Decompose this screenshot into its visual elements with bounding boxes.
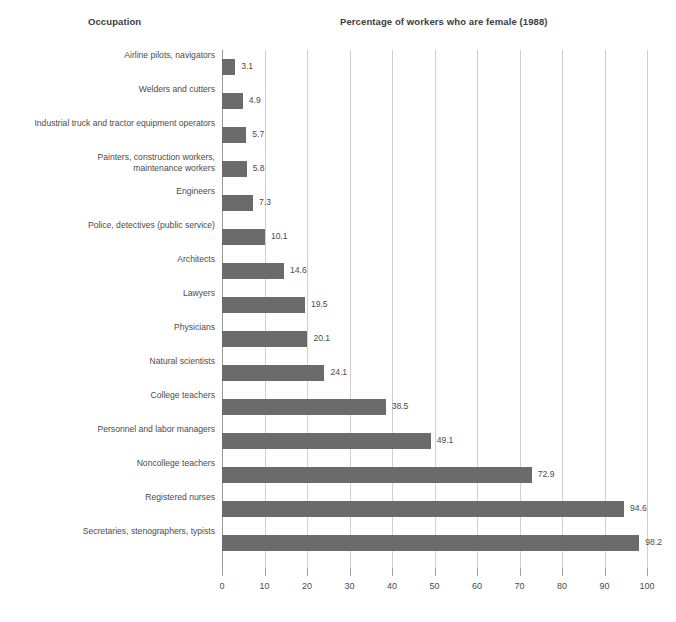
bar xyxy=(222,501,624,517)
bar xyxy=(222,467,532,483)
bar-row: Police, detectives (public service)10.1 xyxy=(0,220,676,254)
bar-container: 94.6 xyxy=(222,501,624,517)
bar-chart: Occupation Percentage of workers who are… xyxy=(0,0,676,622)
bar-row: Physicians20.1 xyxy=(0,322,676,356)
x-tick-label: 50 xyxy=(429,581,439,591)
bar-container: 49.1 xyxy=(222,433,431,449)
bar xyxy=(222,365,324,381)
category-label: Physicians xyxy=(0,322,215,333)
category-label: Architects xyxy=(0,254,215,265)
bar-value-label: 7.3 xyxy=(259,197,271,207)
bar-row: Personnel and labor managers49.1 xyxy=(0,424,676,458)
chart-title: Percentage of workers who are female (19… xyxy=(340,16,548,27)
category-label: Police, detectives (public service) xyxy=(0,220,215,231)
bar-container: 10.1 xyxy=(222,229,265,245)
bar-value-label: 19.5 xyxy=(311,299,328,309)
bar-row: Industrial truck and tractor equipment o… xyxy=(0,118,676,152)
bar-row: Natural scientists24.1 xyxy=(0,356,676,390)
bar-row: Welders and cutters4.9 xyxy=(0,84,676,118)
bar-row: Lawyers19.5 xyxy=(0,288,676,322)
category-label: Welders and cutters xyxy=(0,84,215,95)
bar xyxy=(222,59,235,75)
bar-container: 5.8 xyxy=(222,161,247,177)
bar-container: 24.1 xyxy=(222,365,324,381)
bar-value-label: 5.7 xyxy=(252,129,264,139)
category-label: Registered nurses xyxy=(0,492,215,503)
x-tick-50 xyxy=(435,568,436,576)
bar xyxy=(222,195,253,211)
x-tick-label: 100 xyxy=(639,581,654,591)
category-label: Personnel and labor managers xyxy=(0,424,215,435)
category-label: Lawyers xyxy=(0,288,215,299)
bar-row: Registered nurses94.6 xyxy=(0,492,676,526)
bar-row: Painters, construction workers, maintena… xyxy=(0,152,676,186)
x-tick-label: 60 xyxy=(472,581,482,591)
bar-value-label: 98.2 xyxy=(645,537,662,547)
category-label: Natural scientists xyxy=(0,356,215,367)
bar-value-label: 49.1 xyxy=(437,435,454,445)
x-tick-label: 20 xyxy=(302,581,312,591)
category-label: Painters, construction workers, maintena… xyxy=(0,152,215,173)
bar xyxy=(222,127,246,143)
bar-row: Engineers7.3 xyxy=(0,186,676,220)
bar-value-label: 4.9 xyxy=(249,95,261,105)
x-tick-label: 0 xyxy=(219,581,224,591)
bar-value-label: 20.1 xyxy=(313,333,330,343)
bar-container: 3.1 xyxy=(222,59,235,75)
bar-value-label: 3.1 xyxy=(241,61,253,71)
bar-container: 72.9 xyxy=(222,467,532,483)
bar-value-label: 24.1 xyxy=(330,367,347,377)
category-label: Secretaries, stenographers, typists xyxy=(0,526,215,537)
bar xyxy=(222,229,265,245)
x-tick-70 xyxy=(520,568,521,576)
bar-row: Architects14.6 xyxy=(0,254,676,288)
bar-value-label: 38.5 xyxy=(392,401,409,411)
x-tick-90 xyxy=(605,568,606,576)
bar xyxy=(222,535,639,551)
x-tick-100 xyxy=(647,568,648,576)
bar-value-label: 14.6 xyxy=(290,265,307,275)
category-label: Airline pilots, navigators xyxy=(0,50,215,61)
x-axis: 0102030405060708090100 xyxy=(222,568,647,608)
bar-container: 20.1 xyxy=(222,331,307,347)
bar xyxy=(222,93,243,109)
bar-row: Secretaries, stenographers, typists98.2 xyxy=(0,526,676,560)
category-axis-header: Occupation xyxy=(88,16,141,27)
x-tick-20 xyxy=(307,568,308,576)
bar-container: 14.6 xyxy=(222,263,284,279)
bar-container: 98.2 xyxy=(222,535,639,551)
bar-container: 4.9 xyxy=(222,93,243,109)
bar xyxy=(222,331,307,347)
category-label: College teachers xyxy=(0,390,215,401)
bar-container: 5.7 xyxy=(222,127,246,143)
x-tick-60 xyxy=(477,568,478,576)
bar xyxy=(222,161,247,177)
bar-row: Noncollege teachers72.9 xyxy=(0,458,676,492)
x-tick-30 xyxy=(350,568,351,576)
bar xyxy=(222,297,305,313)
x-tick-label: 10 xyxy=(259,581,269,591)
bar-row: Airline pilots, navigators3.1 xyxy=(0,50,676,84)
bar xyxy=(222,399,386,415)
x-tick-label: 70 xyxy=(514,581,524,591)
x-tick-label: 40 xyxy=(387,581,397,591)
x-tick-80 xyxy=(562,568,563,576)
category-label: Industrial truck and tractor equipment o… xyxy=(0,118,215,129)
bar-rows: Airline pilots, navigators3.1Welders and… xyxy=(0,50,676,560)
bar xyxy=(222,263,284,279)
x-tick-0 xyxy=(222,568,223,576)
bar-value-label: 5.8 xyxy=(253,163,265,173)
x-tick-label: 80 xyxy=(557,581,567,591)
bar-container: 19.5 xyxy=(222,297,305,313)
category-label: Noncollege teachers xyxy=(0,458,215,469)
bar-value-label: 94.6 xyxy=(630,503,647,513)
bar-container: 38.5 xyxy=(222,399,386,415)
bar-row: College teachers38.5 xyxy=(0,390,676,424)
x-tick-10 xyxy=(265,568,266,576)
bar-container: 7.3 xyxy=(222,195,253,211)
bar-value-label: 72.9 xyxy=(538,469,555,479)
bar xyxy=(222,433,431,449)
x-tick-label: 90 xyxy=(599,581,609,591)
x-tick-40 xyxy=(392,568,393,576)
x-tick-label: 30 xyxy=(344,581,354,591)
